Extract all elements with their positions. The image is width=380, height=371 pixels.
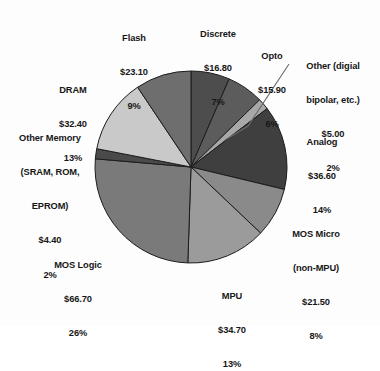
slice-label-dram-value: $32.40 xyxy=(37,119,109,130)
slice-label-dram-percent: 13% xyxy=(37,153,109,164)
slice-label-mpu-name: MPU xyxy=(196,291,268,302)
slice-label-other-memory-percent: 2% xyxy=(2,270,98,281)
slice-label-mos-micro: MOS Micro (non-MPU) $21.50 8% xyxy=(272,206,360,366)
slice-label-other-memory-value: $4.40 xyxy=(2,235,98,246)
slice-label-mos-micro-name1: MOS Micro xyxy=(272,229,360,240)
slice-label-dram-name: DRAM xyxy=(37,85,109,96)
slice-label-dram: DRAM $32.40 13% xyxy=(37,62,109,187)
slice-label-analog-name: Analog xyxy=(286,137,358,148)
slice-label-other-digital-name2: bipolar, etc.) xyxy=(288,95,378,106)
slice-label-other-memory-name3: EPROM) xyxy=(2,201,98,212)
slice-label-mpu-value: $34.70 xyxy=(196,325,268,336)
slice-label-mos-micro-percent: 8% xyxy=(272,331,360,342)
slice-label-mos-micro-value: $21.50 xyxy=(272,297,360,308)
slice-label-mos-micro-name2: (non-MPU) xyxy=(272,263,360,274)
slice-label-mos-logic-percent: 26% xyxy=(38,328,118,339)
slice-label-other-digital-name1: Other (digial xyxy=(288,61,378,72)
slice-label-mpu: MPU $34.70 13% xyxy=(196,268,268,371)
slice-label-analog-value: $36.60 xyxy=(286,171,358,182)
slice-label-mpu-percent: 13% xyxy=(196,359,268,370)
slice-label-flash-name: Flash xyxy=(98,33,170,44)
